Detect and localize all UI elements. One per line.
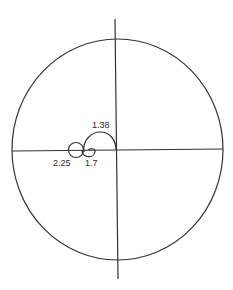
label-1-7: 1.7 xyxy=(85,158,98,168)
diagram-canvas: 1.38 2.25 1.7 xyxy=(0,0,233,290)
label-1-38: 1.38 xyxy=(92,120,110,130)
horizontal-axis xyxy=(12,149,223,151)
label-2-25: 2.25 xyxy=(53,158,71,168)
